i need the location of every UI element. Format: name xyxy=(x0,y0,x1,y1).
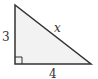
horizontal-leg-label: 4 xyxy=(49,68,57,79)
vertical-leg-label: 3 xyxy=(2,31,10,43)
hypotenuse-label: x xyxy=(54,22,61,34)
triangle-shape xyxy=(15,5,91,64)
